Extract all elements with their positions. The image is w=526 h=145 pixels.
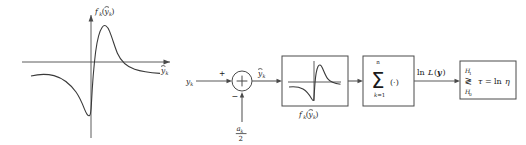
plot-curve — [31, 26, 160, 116]
plot-y-axis-label-f: f — [94, 7, 99, 16]
plot-x-axis-label: y k — [160, 66, 168, 77]
plot-y-axis-arrowhead — [89, 15, 94, 22]
block-diagram: y k + − a k 2 — [185, 56, 516, 143]
figure-root: f k ( y k ) y k y k — [0, 0, 526, 145]
summing-junction-output-sub: k — [262, 73, 265, 79]
nonlinearity-caption-f: f — [298, 110, 303, 119]
figure-canvas: f k ( y k ) y k y k — [0, 0, 526, 145]
bias-input-denominator: 2 — [239, 135, 243, 143]
decision-hypothesis-lower-sub: 0 — [469, 92, 472, 97]
nonlinearity-icon-curve — [289, 65, 341, 101]
plot-x-axis-label-sub: k — [165, 70, 168, 76]
log-likelihood-label: ln L ( y ) — [417, 67, 446, 77]
plot-y-axis-label: f k ( y k ) — [94, 7, 115, 18]
bias-wire-arrowhead — [240, 92, 244, 98]
summing-junction-minus-sign: − — [232, 92, 239, 101]
summation-upper-limit: n — [376, 59, 380, 65]
log-likelihood-L: L — [427, 68, 433, 77]
nonlinearity-block-caption: f k ( y k ) — [298, 110, 319, 121]
junction-to-nonlinearity-arrowhead — [277, 79, 283, 83]
plot-x-axis-arrowhead — [164, 60, 171, 65]
input-signal-label: y k — [185, 77, 193, 87]
summation-to-decision-arrowhead — [455, 79, 461, 83]
summing-junction-plus-sign: + — [219, 69, 225, 78]
decision-block-hypothesis-test: H 1 ≷ H 0 — [464, 67, 472, 97]
decision-threshold-eta: η — [505, 77, 510, 86]
summation-block-content: n Σ k =1 (·) — [371, 59, 398, 98]
summing-junction-output-label: y k — [257, 69, 265, 80]
nonlinearity-caption-close: ) — [316, 110, 319, 119]
bias-input-label: a k 2 — [236, 125, 247, 143]
summation-operand: (·) — [390, 78, 399, 87]
summing-junction-plus-glyph — [237, 76, 248, 87]
decision-threshold-ln: ln — [494, 77, 502, 86]
nonlinearity-block-icon — [288, 61, 341, 101]
decision-threshold-tau: τ — [478, 77, 483, 86]
decision-threshold-equals: = — [485, 77, 492, 86]
nonlinearity-to-summation-arrowhead — [358, 79, 364, 83]
decision-block-threshold: τ = ln η — [478, 77, 510, 86]
log-likelihood-close: ) — [443, 68, 446, 77]
decision-hypothesis-upper-sub: 1 — [469, 71, 472, 76]
summation-sigma-symbol: Σ — [371, 69, 384, 93]
decision-compare-symbol: ≷ — [465, 76, 473, 86]
summation-lower-limit-eq: =1 — [377, 92, 385, 98]
nonlinearity-plot: f k ( y k ) y k — [22, 7, 170, 139]
log-likelihood-ln: ln — [417, 68, 425, 77]
input-signal-label-sub: k — [190, 81, 193, 87]
input-wire-arrowhead — [227, 79, 233, 83]
plot-y-axis-label-close: ) — [112, 7, 115, 16]
